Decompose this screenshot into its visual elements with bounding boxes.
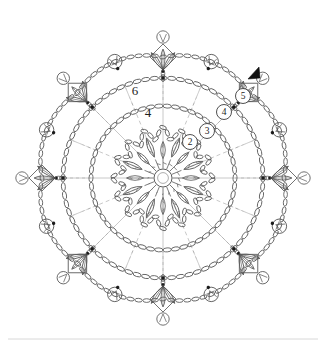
crochet-doily-diagram: 642345 <box>0 0 326 351</box>
join-dot <box>232 247 235 250</box>
round-label-circled: 2 <box>183 135 198 150</box>
svg-text:4: 4 <box>222 107 227 117</box>
round-label-plain: 4 <box>145 105 152 120</box>
motif-connect-chain <box>43 94 74 134</box>
inner-petal-outer <box>169 137 182 158</box>
round-label-circled: 4 <box>217 105 232 120</box>
round-label-circled: 5 <box>236 89 251 104</box>
inner-petal <box>161 198 166 215</box>
svg-text:2: 2 <box>188 137 193 147</box>
doily-artwork <box>16 31 310 325</box>
inner-petal-outer <box>169 198 182 219</box>
svg-text:5: 5 <box>241 91 246 101</box>
join-dot <box>261 176 264 179</box>
center-ring <box>154 169 172 187</box>
join-dot <box>232 106 235 109</box>
outer-leaf-motif <box>150 283 177 325</box>
round-label-circled: 3 <box>200 124 215 139</box>
motif-connect-chain <box>119 294 167 302</box>
svg-text:3: 3 <box>205 126 210 136</box>
motif-connect-chain <box>251 222 282 262</box>
outer-leaf-motif <box>150 31 177 73</box>
inner-petal-outer <box>144 198 157 219</box>
motif-connect-chain <box>207 58 247 89</box>
motif-connect-chain <box>79 266 119 297</box>
start-arrowhead <box>248 67 260 79</box>
doily-chart-canvas: 642345 <box>0 0 326 351</box>
join-dot <box>61 176 64 179</box>
join-dot <box>91 106 94 109</box>
motif-connect-chain <box>279 174 287 222</box>
motif-connect-chain <box>39 134 47 182</box>
join-dot <box>161 276 164 279</box>
inner-petal <box>183 176 200 181</box>
motif-connect-chain <box>159 54 207 62</box>
outer-leaf-motif <box>16 165 58 192</box>
round-label-plain: 6 <box>132 83 139 98</box>
inner-petal <box>127 176 144 181</box>
join-dot <box>161 76 164 79</box>
inner-petal <box>161 142 166 159</box>
outer-leaf-motif <box>268 165 310 192</box>
join-dot <box>91 247 94 250</box>
inner-petal-outer <box>144 137 157 158</box>
